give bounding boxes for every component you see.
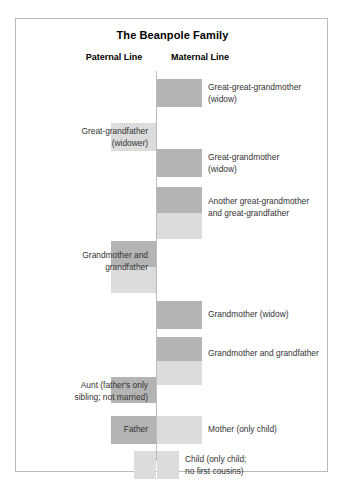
person-block-male <box>157 361 202 385</box>
person-block-female <box>157 337 202 361</box>
generation-label: Great-great-grandmother (widow) <box>208 82 323 105</box>
generation-label: Aunt (father's only sibling; not married… <box>34 380 148 403</box>
generation-label: Grandmother (widow) <box>208 309 323 321</box>
person-block-female <box>157 187 202 213</box>
generation-label: Great-grandfather (widower) <box>34 126 148 149</box>
diagram-frame: The Beanpole Family Paternal Line Matern… <box>15 18 328 472</box>
person-block-male <box>134 451 156 479</box>
generation-label: Great-grandmother (widow) <box>208 152 323 175</box>
generation-label: Another great-grandmother and great-gran… <box>208 196 323 219</box>
generation-label: Grandmother and grandfather <box>34 250 148 273</box>
person-block-male <box>157 451 179 479</box>
person-block-male <box>157 213 202 239</box>
person-block-female <box>157 149 202 177</box>
person-block-female <box>157 301 202 329</box>
generation-label-right: Mother (only child) <box>208 424 323 436</box>
person-block-female <box>157 79 202 107</box>
generation-label: Grandmother and grandfather <box>208 348 323 360</box>
generation-rows: Great-great-grandmother (widow)Great-gra… <box>16 19 329 473</box>
generation-label-left: Father <box>34 424 148 436</box>
person-block-male <box>157 416 202 444</box>
generation-label: Child (only child; no first cousins) <box>185 454 323 477</box>
